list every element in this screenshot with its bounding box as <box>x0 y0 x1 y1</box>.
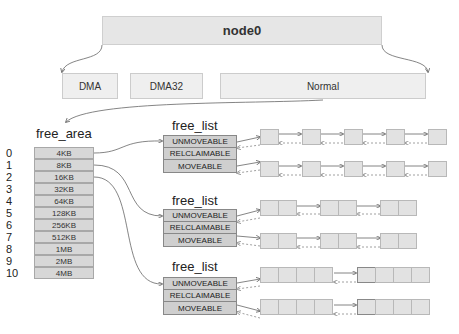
free-list-title: free_list <box>172 259 218 274</box>
free-area-row: 4MB <box>34 267 94 279</box>
page-block <box>411 267 430 283</box>
page-block <box>411 299 430 315</box>
page-block <box>260 161 279 177</box>
order-index: 4 <box>6 195 24 207</box>
page-block <box>393 299 412 315</box>
page-block <box>296 299 315 315</box>
block-size: 1MB <box>56 245 72 254</box>
page-block <box>393 267 412 283</box>
block-size: 64KB <box>54 197 74 206</box>
migrate-type-row: UNMOVEABLE <box>164 278 236 290</box>
migrate-type-row: RELCLAIMABLE <box>164 148 236 160</box>
zone-label: DMA32 <box>150 81 183 92</box>
order-index: 9 <box>6 255 24 267</box>
page-block <box>260 233 279 249</box>
block-size: 8KB <box>56 161 71 170</box>
page-block <box>398 233 417 249</box>
block-size: 4KB <box>56 149 71 158</box>
block-size: 512KB <box>52 233 76 242</box>
page-block <box>344 161 363 177</box>
zone-label: DMA <box>79 81 101 92</box>
zone-dma32: DMA32 <box>130 73 203 99</box>
free-list-table: UNMOVEABLE RELCLAIMABLE MOVEABLE <box>163 277 237 315</box>
free-area-row: 4KB <box>34 147 94 159</box>
node-label: node0 <box>223 23 261 38</box>
page-block <box>386 161 405 177</box>
zone-label: Normal <box>307 81 339 92</box>
migrate-type-row: MOVEABLE <box>164 302 236 314</box>
page-block <box>302 129 321 145</box>
page-block <box>314 267 333 283</box>
page-block <box>338 233 357 249</box>
migrate-type-row: MOVEABLE <box>164 160 236 172</box>
order-index: 5 <box>6 207 24 219</box>
page-block <box>344 129 363 145</box>
free-area-row: 128KB <box>34 207 94 219</box>
block-size: 32KB <box>54 185 74 194</box>
page-block <box>260 129 279 145</box>
page-block <box>278 267 297 283</box>
block-size: 16KB <box>54 173 74 182</box>
free-area-row: 16KB <box>34 171 94 183</box>
free-list-title: free_list <box>172 118 218 133</box>
page-block <box>314 299 333 315</box>
order-index: 10 <box>6 267 24 279</box>
zone-normal: Normal <box>220 73 426 99</box>
free-area-row: 256KB <box>34 219 94 231</box>
page-block <box>380 233 399 249</box>
free-area-row: 2MB <box>34 255 94 267</box>
free-list-table: UNMOVEABLE RELCLAIMABLE MOVEABLE <box>163 209 237 247</box>
block-size: 2MB <box>56 257 72 266</box>
order-index: 6 <box>6 219 24 231</box>
page-block <box>278 233 297 249</box>
page-block <box>278 299 297 315</box>
page-block <box>320 233 339 249</box>
page-block <box>320 200 339 216</box>
page-block <box>428 161 447 177</box>
free-list-title: free_list <box>172 193 218 208</box>
free-area-row: 512KB <box>34 231 94 243</box>
order-index: 7 <box>6 231 24 243</box>
order-index: 2 <box>6 171 24 183</box>
page-block <box>398 200 417 216</box>
free-area-row: 64KB <box>34 195 94 207</box>
free-list-table: UNMOVEABLE RELCLAIMABLE MOVEABLE <box>163 135 237 173</box>
page-block <box>260 267 279 283</box>
page-block <box>260 299 279 315</box>
page-block <box>357 299 376 315</box>
order-index: 8 <box>6 243 24 255</box>
block-size: 4MB <box>56 269 72 278</box>
page-block <box>375 299 394 315</box>
page-block <box>375 267 394 283</box>
page-block <box>428 129 447 145</box>
free-area-title: free_area <box>36 126 92 141</box>
block-size: 128KB <box>52 209 76 218</box>
block-size: 256KB <box>52 221 76 230</box>
page-block <box>386 129 405 145</box>
node-box: node0 <box>102 16 382 45</box>
order-index: 3 <box>6 183 24 195</box>
page-block <box>380 200 399 216</box>
page-block <box>302 161 321 177</box>
migrate-type-row: UNMOVEABLE <box>164 136 236 148</box>
migrate-type-row: MOVEABLE <box>164 234 236 246</box>
migrate-type-row: RELCLAIMABLE <box>164 222 236 234</box>
migrate-type-row: UNMOVEABLE <box>164 210 236 222</box>
page-block <box>357 267 376 283</box>
free-area-row: 8KB <box>34 159 94 171</box>
free-area-row: 1MB <box>34 243 94 255</box>
order-index: 1 <box>6 159 24 171</box>
migrate-type-row: RELCLAIMABLE <box>164 290 236 302</box>
page-block <box>296 267 315 283</box>
page-block <box>260 200 279 216</box>
order-index: 0 <box>6 147 24 159</box>
page-block <box>338 200 357 216</box>
page-block <box>278 200 297 216</box>
zone-dma: DMA <box>62 73 118 99</box>
free-area-row: 32KB <box>34 183 94 195</box>
